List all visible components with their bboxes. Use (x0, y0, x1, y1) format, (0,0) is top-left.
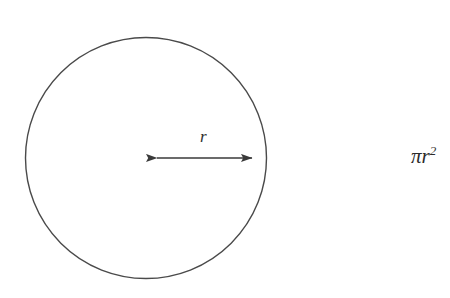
area-formula: πr2 (411, 146, 436, 167)
circle-diagram-svg (0, 0, 450, 298)
area-formula-exponent: 2 (430, 143, 437, 158)
area-formula-base: πr (411, 144, 430, 168)
radius-label: r (200, 128, 207, 145)
figure-canvas: r πr2 (0, 0, 450, 298)
